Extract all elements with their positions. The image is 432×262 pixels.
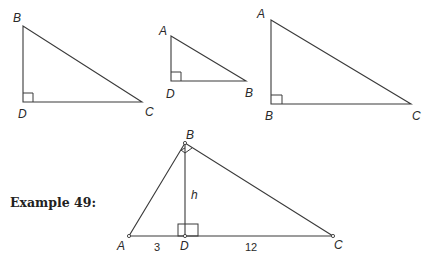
segment-ad-length: 3 — [154, 241, 160, 253]
triangle-abc-outline — [271, 20, 411, 104]
triangle-abc: A B C — [256, 7, 421, 123]
triangle-adb-outline — [171, 36, 246, 81]
vertex-label-b: B — [13, 11, 21, 25]
vertex-label-a: A — [158, 24, 167, 38]
vertex-label-b: B — [265, 109, 273, 123]
vertex-label-a: A — [116, 239, 125, 253]
main-triangle-outline — [129, 143, 333, 236]
right-angle-marker-d — [178, 224, 198, 236]
vertex-label-a: A — [256, 7, 265, 21]
altitude-label-h: h — [191, 188, 198, 202]
vertex-label-d: D — [18, 107, 27, 121]
main-triangle-figure: B A D C h 3 12 — [116, 128, 343, 253]
vertex-label-b: B — [186, 128, 194, 142]
triangle-bdc-outline — [23, 26, 142, 102]
triangle-adb: A D B — [158, 24, 253, 101]
vertex-label-d: D — [166, 87, 175, 101]
diagram-canvas: B D C A D B A B C Example 49: B A D — [0, 0, 432, 262]
vertex-label-c: C — [334, 238, 343, 252]
right-angle-marker-d — [23, 93, 33, 102]
segment-dc-length: 12 — [245, 241, 257, 253]
point-d — [183, 234, 186, 237]
right-angle-marker-d — [171, 72, 181, 81]
triangle-bdc: B D C — [13, 11, 154, 121]
right-angle-marker-b — [271, 95, 282, 104]
vertex-label-c: C — [145, 105, 154, 119]
point-a — [127, 234, 130, 237]
vertex-label-c: C — [412, 109, 421, 123]
vertex-label-b: B — [245, 86, 253, 100]
example-label: Example 49: — [10, 195, 96, 210]
vertex-label-d: D — [180, 239, 189, 253]
